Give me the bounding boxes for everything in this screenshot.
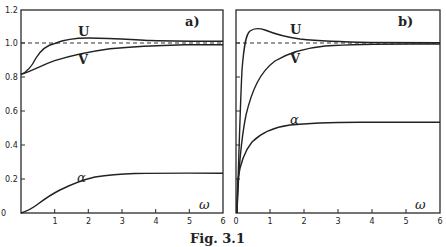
x-tick-6: 6 [221, 217, 226, 226]
panel-a: 0 0.2 0.4 0.6 0.8 1.0 1.2 1 2 3 4 5 6 ω [1, 6, 226, 226]
figure-3-1: 0 0.2 0.4 0.6 0.8 1.0 1.2 1 2 3 4 5 6 ω [0, 0, 446, 247]
x-tick-2: 2 [86, 217, 91, 226]
x-tick-0: 0 [234, 217, 239, 226]
y-tick-0.8: 0.8 [5, 73, 18, 82]
panel-b-curve-U [237, 29, 440, 213]
y-tick-0.4: 0.4 [5, 141, 18, 150]
x-tick-1: 1 [53, 217, 58, 226]
panel-b: 0 1 2 3 4 5 6 ω U V α b) [234, 10, 443, 226]
panel-a-x-axis: 1 2 3 4 5 6 ω [53, 197, 226, 226]
x-axis-label-omega: ω [199, 197, 210, 212]
panel-a-label: a) [185, 14, 200, 29]
panel-b-curve-alpha [237, 122, 440, 213]
panel-a-frame [21, 10, 223, 213]
x-tick-4: 4 [153, 217, 158, 226]
y-tick-0.6: 0.6 [5, 107, 18, 116]
panel-a-label-V: V [77, 52, 89, 67]
x-tick-6: 6 [438, 217, 443, 226]
figure-caption: Fig. 3.1 [190, 231, 245, 246]
x-tick-5: 5 [187, 217, 192, 226]
panel-b-label-alpha: α [290, 112, 299, 127]
x-tick-5: 5 [404, 217, 409, 226]
panel-a-curve-V [21, 45, 223, 75]
panel-b-x-axis: 0 1 2 3 4 5 6 ω [234, 197, 443, 226]
x-tick-2: 2 [302, 217, 307, 226]
y-tick-0.2: 0.2 [5, 175, 18, 184]
panel-a-label-alpha: α [77, 170, 86, 185]
panel-b-frame [236, 10, 440, 213]
y-tick-1.2: 1.2 [5, 6, 18, 15]
x-tick-3: 3 [120, 217, 125, 226]
panel-b-label-V: V [289, 51, 301, 66]
y-tick-1.0: 1.0 [5, 39, 18, 48]
panel-a-label-U: U [78, 24, 90, 39]
x-axis-label-omega: ω [415, 197, 426, 212]
panel-b-curve-V [237, 44, 440, 213]
y-tick-0: 0 [1, 209, 6, 218]
panel-a-curve-alpha [21, 173, 223, 213]
x-tick-1: 1 [268, 217, 273, 226]
panel-b-label: b) [398, 14, 413, 29]
x-tick-4: 4 [370, 217, 375, 226]
x-tick-3: 3 [336, 217, 341, 226]
panel-b-label-U: U [290, 22, 302, 37]
